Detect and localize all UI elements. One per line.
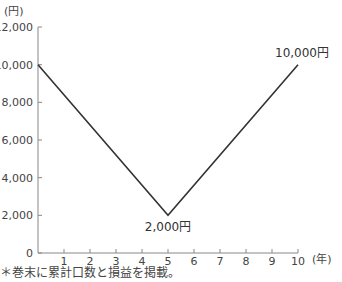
y-tick-label: 12,000 (0, 21, 33, 34)
data-label: 10,000円 (275, 46, 329, 60)
footnote: ＊巻末に累計口数と損益を掲載。 (0, 263, 180, 280)
y-tick-label: 8,000 (2, 96, 34, 109)
x-tick-label: 8 (243, 255, 250, 268)
x-tick-label: 9 (269, 255, 276, 268)
x-axis-unit: (年) (312, 252, 332, 266)
y-tick-label: 10,000 (0, 59, 33, 72)
y-tick-label: 0 (26, 247, 33, 260)
data-line (38, 65, 298, 216)
data-label: 2,000円 (145, 220, 191, 234)
y-axis-unit: (円) (4, 5, 24, 18)
x-tick-label: 7 (217, 255, 224, 268)
y-ticks: 02,0004,0006,0008,00010,00012,000 (0, 21, 42, 260)
y-tick-label: 4,000 (2, 172, 34, 185)
y-tick-label: 2,000 (2, 209, 34, 222)
y-tick-label: 6,000 (2, 134, 34, 147)
annotations: 2,000円10,000円 (145, 46, 329, 235)
chart: 02,0004,0006,0008,00010,00012,000 123456… (0, 0, 342, 282)
x-tick-label: 10 (291, 255, 305, 268)
x-tick-label: 6 (191, 255, 198, 268)
